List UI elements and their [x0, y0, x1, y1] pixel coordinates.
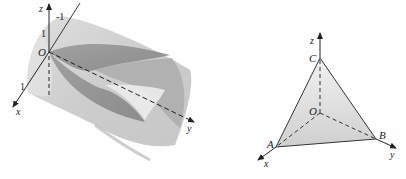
origin-label: O: [309, 105, 317, 117]
x-tick-one: 1: [20, 81, 25, 92]
origin-label: O: [38, 46, 46, 58]
cylinder-intersection-figure: z -1 1 O 1 x y: [0, 0, 230, 179]
tetrahedron-figure: z C O A B x y: [230, 0, 406, 179]
face-abc: [276, 58, 376, 147]
x-axis-label: x: [263, 158, 269, 169]
z-tick-one: 1: [41, 28, 46, 39]
vertex-a-label: A: [266, 138, 274, 150]
neg-one-tick: -1: [56, 11, 64, 22]
z-axis-label: z: [38, 3, 43, 14]
y-axis-label: y: [186, 123, 192, 134]
z-axis-label: z: [309, 35, 314, 46]
vertex-c-label: C: [309, 52, 317, 64]
cylinder-intersection-diagram: z -1 1 O 1 x y: [0, 0, 230, 179]
x-axis-label: x: [15, 106, 21, 117]
y-axis-label: y: [389, 149, 395, 160]
vertex-b-label: B: [379, 129, 386, 141]
tetrahedron-diagram: z C O A B x y: [230, 0, 406, 179]
